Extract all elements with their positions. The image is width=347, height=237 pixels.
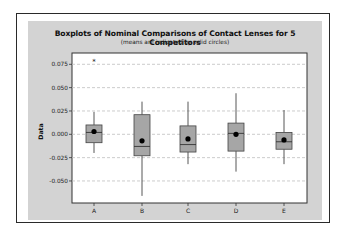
mean-dot <box>185 136 190 141</box>
y-tick-label: 0.050 <box>51 85 68 91</box>
y-axis: 0.0750.0500.0250.000-0.025-0.050 <box>49 61 72 184</box>
y-tick-label: -0.025 <box>49 155 68 161</box>
x-tick-label: B <box>140 207 144 214</box>
y-tick-label: 0.075 <box>51 61 68 67</box>
y-tick-label: 0.025 <box>51 108 68 114</box>
boxplot-chart: 0.0750.0500.0250.000-0.025-0.050 ABCDE * <box>0 0 347 237</box>
x-tick-label: C <box>186 207 190 214</box>
mean-dot <box>91 129 96 134</box>
y-tick-label: 0.000 <box>51 131 68 137</box>
x-tick-label: E <box>282 207 286 214</box>
x-tick-label: A <box>92 207 97 214</box>
mean-dot <box>281 137 286 142</box>
outlier-marker: * <box>92 58 96 66</box>
x-tick-label: D <box>234 207 239 214</box>
mean-dot <box>233 132 238 137</box>
iqr-box <box>228 123 244 151</box>
mean-dot <box>139 138 144 143</box>
iqr-box <box>134 115 150 156</box>
x-axis: ABCDE <box>92 203 286 214</box>
y-tick-label: -0.050 <box>49 178 68 184</box>
